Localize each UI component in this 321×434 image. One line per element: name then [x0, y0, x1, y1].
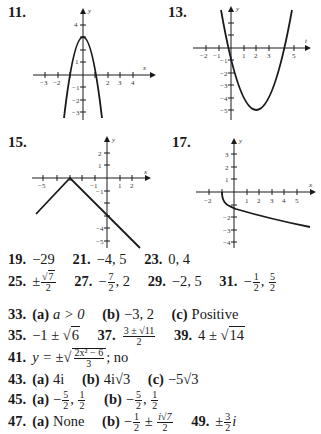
svg-text:−3: −3 [72, 109, 80, 117]
svg-text:2: 2 [106, 79, 110, 87]
svg-text:4: 4 [131, 79, 135, 87]
svg-text:3: 3 [270, 197, 274, 205]
svg-text:y: y [235, 5, 240, 13]
svg-text:3: 3 [118, 79, 122, 87]
graph-11: y x −3−2 234 41 −1−2−3 [0, 0, 160, 122]
svg-text:−2: −2 [223, 214, 231, 222]
svg-text:1: 1 [98, 162, 102, 170]
answer-33: 33.(a)a > 0 (b)−3, 2 (c)Positive [8, 305, 238, 323]
svg-text:−4: −4 [96, 225, 104, 233]
answer-row-25-31: 25.±√72 27.−72, 2 29.−2, 5 31.−12, 52 [8, 272, 277, 293]
svg-text:1: 1 [225, 176, 229, 184]
svg-text:2: 2 [257, 197, 261, 205]
svg-text:x: x [143, 168, 148, 176]
svg-text:y: y [238, 137, 243, 145]
answer-row-35-39: 35.−1 ± √6 37.3 ± √112 39.4 ± √14 [8, 326, 245, 347]
svg-text:2: 2 [225, 164, 229, 172]
graph-15: y x −5−1 12 21 −1−4−5 [0, 122, 160, 250]
svg-text:1: 1 [242, 52, 246, 60]
svg-text:4: 4 [74, 21, 78, 29]
graph-17: y x −2 12345 321 −2−3−4 [160, 122, 321, 250]
answer-43: 43.(a)4i (b)4i√3 (c)−5√3 [8, 370, 199, 388]
answer-41: 41.y = ±√2x² − 63; no [8, 348, 128, 369]
svg-text:2: 2 [130, 182, 134, 190]
svg-text:5: 5 [295, 197, 299, 205]
svg-text:−4: −4 [223, 239, 231, 247]
answer-45: 45.(a)−52, 12 (b)−52, 12 [8, 390, 159, 411]
graph-11-ylabel: y [87, 7, 92, 15]
svg-text:2: 2 [254, 52, 258, 60]
svg-text:t: t [305, 37, 308, 45]
svg-text:1: 1 [118, 182, 122, 190]
svg-text:−4: −4 [220, 95, 228, 103]
svg-text:−1: −1 [220, 57, 228, 65]
svg-text:3: 3 [267, 52, 271, 60]
svg-text:−1: −1 [96, 188, 104, 196]
svg-text:−3: −3 [220, 82, 228, 90]
svg-text:2: 2 [98, 150, 102, 158]
svg-text:y: y [111, 136, 116, 144]
svg-text:−5: −5 [96, 238, 104, 246]
svg-text:3: 3 [225, 151, 229, 159]
graph-13: y t −2−1 1235 −1−2−3−4−5 [160, 0, 321, 122]
svg-text:x: x [142, 64, 147, 72]
svg-text:−2: −2 [53, 79, 61, 87]
svg-text:−5: −5 [38, 182, 46, 190]
svg-text:−2: −2 [204, 197, 212, 205]
svg-text:4: 4 [282, 197, 286, 205]
svg-text:−2: −2 [220, 70, 228, 78]
svg-text:1: 1 [75, 58, 79, 66]
answer-row-47-49: 47.(a)None (b)−12 ± i√72 49.±32i [8, 412, 236, 433]
svg-text:1: 1 [245, 197, 249, 205]
svg-text:−1: −1 [72, 84, 80, 92]
answer-row-19-23: 19.−29 21.−4, 5 23.0, 4 [8, 250, 190, 268]
svg-text:−2: −2 [200, 52, 208, 60]
svg-text:−3: −3 [223, 227, 231, 235]
svg-text:−3: −3 [40, 79, 48, 87]
svg-text:5: 5 [292, 52, 296, 60]
svg-text:−2: −2 [72, 97, 80, 105]
svg-text:x: x [308, 181, 313, 189]
svg-text:−5: −5 [220, 107, 228, 115]
